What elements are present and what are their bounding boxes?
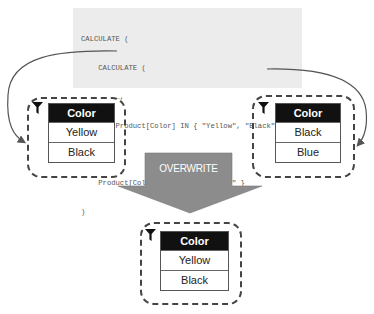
funnel-icon	[145, 229, 156, 241]
overwrite-label: OVERWRITE	[145, 163, 232, 174]
filter-table-inner: Color Yellow Black	[48, 103, 115, 163]
filter-table-result: Color Yellow Black	[160, 231, 229, 291]
table-row: Black	[49, 142, 114, 162]
table-row: Black	[161, 270, 228, 290]
funnel-icon	[258, 102, 269, 114]
table-row: Yellow	[49, 122, 114, 142]
overwrite-arrow	[118, 153, 262, 213]
column-header: Color	[276, 104, 340, 122]
filter-table-outer: Color Black Blue	[275, 103, 341, 163]
funnel-icon	[32, 102, 43, 114]
table-row: Blue	[276, 142, 340, 162]
column-header: Color	[49, 104, 114, 122]
table-row: Yellow	[161, 250, 228, 270]
table-row: Black	[276, 122, 340, 142]
column-header: Color	[161, 232, 228, 250]
